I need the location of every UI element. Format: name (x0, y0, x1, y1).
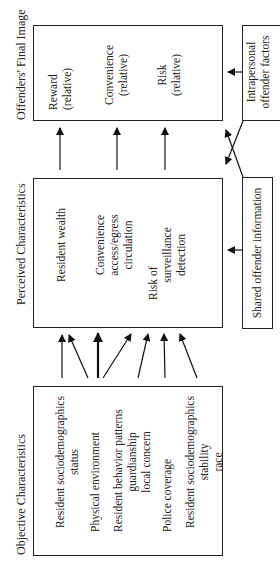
arrow (138, 334, 148, 378)
arrow (226, 121, 243, 164)
arrows-layer (0, 0, 280, 588)
arrow (69, 335, 88, 378)
arrow (180, 334, 197, 378)
arrow (226, 130, 243, 177)
arrow (164, 334, 165, 378)
arrow (103, 334, 131, 378)
